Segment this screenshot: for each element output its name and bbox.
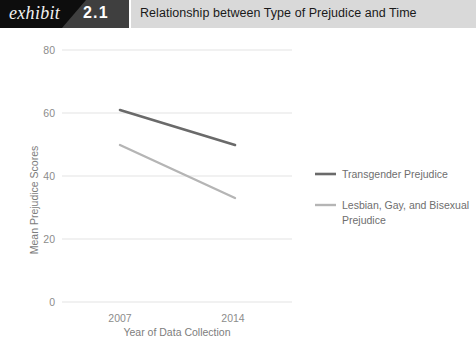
x-axis-ticks: 2007 2014 [108, 312, 245, 324]
chart-gridlines [62, 50, 292, 302]
series-line-transgender-prejudice [120, 110, 235, 145]
exhibit-word-label: exhibit [9, 3, 60, 24]
series-line-lgb-prejudice [120, 145, 235, 198]
y-axis-title: Mean Prejudice Scores [28, 146, 40, 255]
legend-label-lgb-prejudice-line1: Lesbian, Gay, and Bisexual [342, 199, 469, 211]
y-tick-label-20: 20 [43, 233, 55, 245]
x-axis-title: Year of Data Collection [123, 326, 230, 337]
y-tick-label-60: 60 [43, 107, 55, 119]
chart-container: 80 60 40 20 0 Mean Prejudice Scores 2007… [0, 28, 476, 337]
chart-legend: Transgender Prejudice Lesbian, Gay, and … [315, 168, 469, 226]
x-tick-label-2014: 2014 [221, 312, 245, 324]
exhibit-header: exhibit 2.1 Relationship between Type of… [0, 0, 476, 28]
line-chart: 80 60 40 20 0 Mean Prejudice Scores 2007… [0, 28, 476, 337]
exhibit-title-text: Relationship between Type of Prejudice a… [140, 6, 417, 20]
y-tick-label-0: 0 [49, 296, 55, 308]
legend-label-lgb-prejudice-line2: Prejudice [342, 214, 386, 226]
x-tick-label-2007: 2007 [108, 312, 132, 324]
exhibit-number-label: 2.1 [83, 4, 109, 22]
y-axis-ticks: 80 60 40 20 0 [43, 44, 55, 308]
y-tick-label-80: 80 [43, 44, 55, 56]
legend-label-transgender-prejudice: Transgender Prejudice [342, 168, 448, 180]
y-tick-label-40: 40 [43, 170, 55, 182]
